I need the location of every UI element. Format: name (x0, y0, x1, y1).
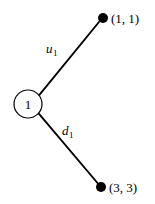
down-terminal-node-dot (96, 182, 106, 192)
up-edge-label-subscript: 1 (53, 48, 58, 58)
up-edge-line (39, 22, 99, 95)
root-node-label: 1 (25, 97, 32, 112)
down-edge-label-base: d (62, 123, 69, 138)
binomial-tree-diagram: 1 u1 d1 (1, 1) (3, 3) (0, 0, 155, 204)
up-edge-label-base: u (46, 41, 53, 56)
up-terminal-node-dot (98, 13, 108, 23)
down-edge-label: d1 (62, 123, 74, 140)
down-edge-label-subscript: 1 (69, 130, 74, 140)
up-edge-label: u1 (46, 41, 58, 58)
down-terminal-node-label: (3, 3) (109, 180, 137, 195)
up-terminal-node-label: (1, 1) (111, 11, 139, 26)
tree-canvas: 1 u1 d1 (1, 1) (3, 3) (0, 0, 155, 204)
